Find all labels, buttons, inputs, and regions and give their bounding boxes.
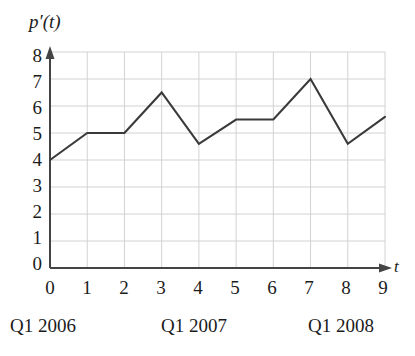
plot-area [0,0,415,356]
horizontal-gridlines [50,52,385,268]
chart-figure: p′(t) t 8 7 6 5 4 3 2 1 0 0 1 2 3 4 5 6 … [0,0,415,356]
axis-lines [46,46,393,273]
data-series-line [50,79,385,160]
